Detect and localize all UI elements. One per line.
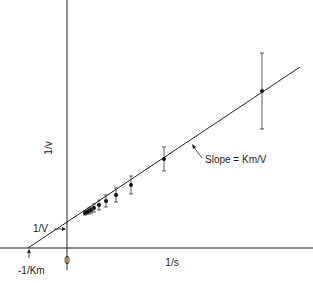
lineweaver-burk-plot: 1/v 1/s 0 1/V -1/Km Slope = Km/V [0, 0, 313, 288]
data-point [260, 89, 264, 93]
origin-label: 0 [64, 255, 70, 266]
data-point [129, 183, 133, 187]
arrowhead-icon [192, 144, 196, 149]
slope-label: Slope = Km/V [205, 154, 267, 165]
arrowhead-icon [62, 227, 66, 231]
data-point [92, 206, 96, 210]
y-axis-label: 1/v [43, 141, 54, 154]
data-points [83, 53, 264, 215]
x-intercept-label: -1/Km [18, 265, 45, 276]
data-point [162, 157, 166, 161]
data-point [114, 193, 118, 197]
arrowhead-icon [27, 249, 31, 253]
y-intercept-label: 1/V [33, 223, 48, 234]
data-point [97, 203, 101, 207]
x-axis-label: 1/s [165, 257, 178, 268]
data-point [104, 199, 108, 203]
